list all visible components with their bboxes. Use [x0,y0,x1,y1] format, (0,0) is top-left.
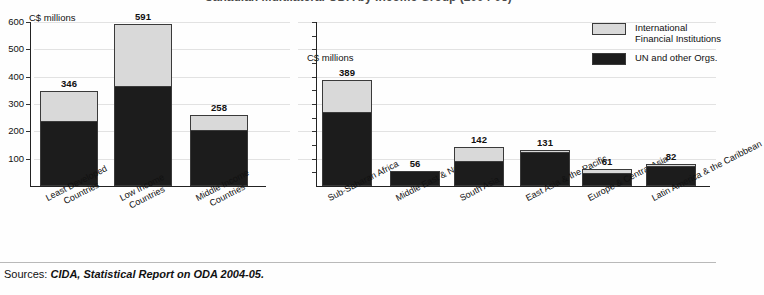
bar-value-label: 131 [520,137,570,148]
bar-value-label: 258 [190,102,248,113]
bar-segment-un-and-other-orgs [115,86,171,185]
y-axis-tick [312,159,316,160]
y-axis-tick [312,63,316,64]
bar-value-label: 82 [646,151,696,162]
y-axis-tick [312,104,316,105]
source-note: Sources: CIDA, Statistical Report on ODA… [4,268,264,280]
source-label: Sources: [4,268,47,280]
legend-label-un-line1: UN and other Orgs. [635,52,717,63]
plot-area-left: 100200300400500600346Least DevelopedCoun… [0,8,290,258]
y-axis-tick [312,131,316,132]
chart-income-group: C$ millions 100200300400500600346Least D… [0,8,290,258]
y-axis-tick [312,49,316,50]
bar-value-label: 61 [582,156,632,167]
y-axis-tick-label: 300 [0,98,24,109]
y-axis-tick [26,159,30,160]
y-axis-tick [26,131,30,132]
legend-label-ifi: International Financial Institutions [635,22,721,44]
legend-item-ifi[interactable]: International Financial Institutions [592,22,721,44]
figure-title-text: Canadian Multilateral ODA by Income Grou… [0,0,716,4]
chart-region: C$ millions 389Sub-Saharan Africa56Middl… [298,8,716,258]
bar[interactable] [114,24,172,186]
plot-area-right: 389Sub-Saharan Africa56Middle East & Nor… [298,8,716,258]
y-axis-tick-label: 200 [0,125,24,136]
bar-value-label: 346 [40,78,98,89]
legend-swatch-un-icon [592,53,626,65]
y-axis-tick [312,172,316,173]
y-axis-tick-label: 500 [0,43,24,54]
source-reference: CIDA, Statistical Report on ODA 2004-05. [50,268,264,280]
y-axis-tick-label: 100 [0,153,24,164]
y-axis-tick [312,145,316,146]
bar-value-label: 591 [114,11,172,22]
x-axis-line [316,186,710,187]
legend-item-un[interactable]: UN and other Orgs. [592,52,717,65]
y-axis-tick [26,49,30,50]
y-axis-tick [312,90,316,91]
legend-label-ifi-line1: International [635,22,687,33]
y-axis-tick [312,36,316,37]
y-axis-tick [26,77,30,78]
y-axis-tick [312,118,316,119]
bar[interactable] [322,80,372,186]
y-axis-line [316,22,317,187]
y-axis-tick-label: 400 [0,71,24,82]
y-axis-tick [312,77,316,78]
legend-swatch-ifi-icon [592,23,626,35]
y-axis-tick [26,22,30,23]
y-axis-tick [26,104,30,105]
legend-label-un: UN and other Orgs. [635,52,717,63]
y-axis-tick-label: 600 [0,16,24,27]
bar-value-label: 142 [454,134,504,145]
legend-label-ifi-line2: Financial Institutions [635,33,721,44]
bar-value-label: 389 [322,67,372,78]
bar-value-label: 56 [390,158,440,169]
footer-divider [0,262,716,263]
gridline [298,49,716,50]
y-axis-line [30,22,31,187]
y-axis-tick [312,22,316,23]
